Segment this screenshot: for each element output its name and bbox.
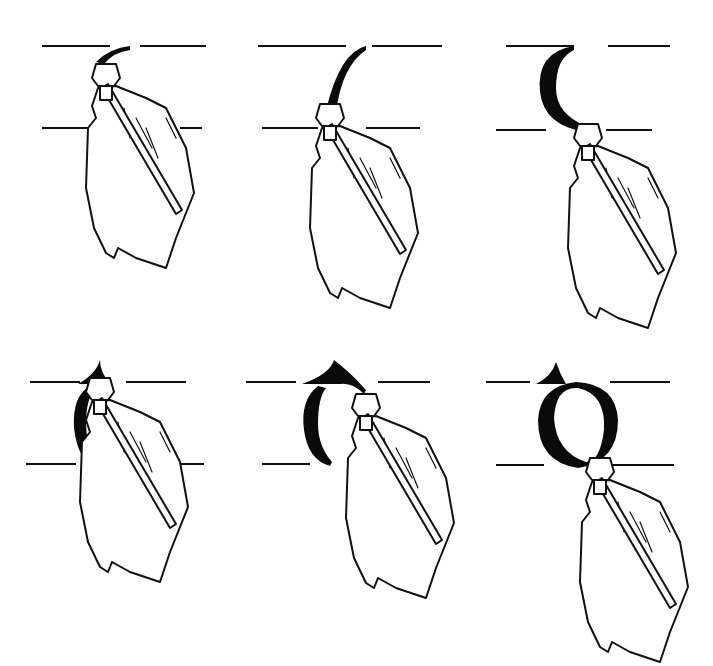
- step-1-panel: [42, 46, 206, 268]
- step-3-panel: [496, 46, 676, 328]
- step-2-panel: [258, 46, 442, 308]
- step-6-panel: [486, 362, 688, 662]
- step-4-panel: [26, 360, 204, 582]
- calligraphy-figure: [0, 0, 713, 666]
- step-5-panel: [246, 360, 454, 598]
